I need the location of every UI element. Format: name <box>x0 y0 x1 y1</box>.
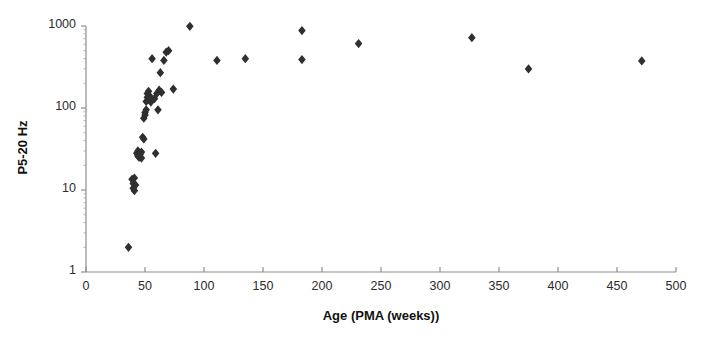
data-point-marker <box>298 55 306 64</box>
data-point-marker <box>525 64 533 73</box>
data-point-marker <box>298 26 306 35</box>
data-point-marker <box>186 22 194 31</box>
chart-figure: P5-20 Hz Age (PMA (weeks)) 1101001000 05… <box>0 0 712 346</box>
scatter-plot-area <box>0 0 712 346</box>
data-point-marker <box>213 56 221 65</box>
data-point-marker <box>638 56 646 65</box>
data-point-marker <box>152 149 160 158</box>
data-point-marker <box>170 85 178 94</box>
data-point-marker <box>468 33 476 42</box>
data-point-marker <box>355 39 363 48</box>
data-point-marker <box>242 54 250 63</box>
data-point-marker <box>125 243 133 252</box>
data-point-marker <box>148 54 156 63</box>
data-point-marker <box>154 105 162 114</box>
data-point-marker <box>157 68 165 77</box>
data-point-marker <box>160 56 168 65</box>
